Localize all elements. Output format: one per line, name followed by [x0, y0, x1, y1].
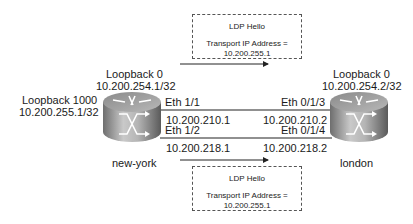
router-icon-london: [330, 92, 388, 142]
link2-ny-interface: Eth 1/2: [165, 124, 200, 136]
london-loopback0-label: Loopback 0: [333, 68, 390, 80]
link2-ny-ip: 10.200.218.1: [166, 142, 230, 154]
ny-loopback0-ip: 10.200.254.1/32: [96, 80, 176, 92]
london-router-name: london: [340, 157, 373, 169]
transport-ip-value: 10.200.255.1: [193, 49, 301, 59]
ldp-hello-title: LDP Hello: [193, 22, 301, 32]
ldp-hello-box-bottom: LDP Hello Transport IP Address = 10.200.…: [192, 166, 302, 211]
link1-london-interface: Eth 0/1/3: [281, 96, 325, 108]
link2-london-interface: Eth 0/1/4: [281, 124, 325, 136]
london-loopback0-ip: 10.200.254.2/32: [322, 80, 402, 92]
transport-ip-label: Transport IP Address =: [193, 39, 301, 49]
ny-loopback1000-label: Loopback 1000: [22, 94, 97, 106]
link1-ny-interface: Eth 1/1: [165, 96, 200, 108]
ny-router-name: new-york: [112, 157, 157, 169]
ldp-hello-box-top: LDP Hello Transport IP Address = 10.200.…: [192, 14, 302, 59]
ny-loopback1000-ip: 10.200.255.1/32: [19, 106, 99, 118]
transport-ip-value: 10.200.255.1: [193, 201, 301, 211]
transport-ip-label: Transport IP Address =: [193, 191, 301, 201]
router-icon-new-york: [103, 92, 161, 142]
ldp-hello-title: LDP Hello: [193, 174, 301, 184]
link2-london-ip: 10.200.218.2: [263, 142, 327, 154]
ny-loopback0-label: Loopback 0: [106, 68, 163, 80]
